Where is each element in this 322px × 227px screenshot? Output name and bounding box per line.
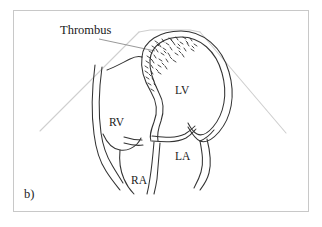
tricuspid-leaflet-2 [124,143,143,145]
la-lateral-wall-outer [200,139,210,190]
ultrasound-sector [40,30,286,133]
panel-label: b) [24,188,34,201]
label-thrombus: Thrombus [60,24,111,37]
lv-septal-wall [142,57,157,141]
tricuspid-leaflet [124,137,142,140]
heart-diagram [0,0,322,227]
ra-free-wall [120,150,134,194]
label-left-ventricle: LV [175,85,189,97]
label-right-ventricle: RV [109,117,124,129]
label-left-atrium: LA [175,151,190,163]
interatrial-septum [147,142,154,194]
heart-outlines [92,31,232,194]
rv-tricuspid-base [103,134,141,150]
la-lateral-wall [194,141,203,188]
figure-panel-b: Thrombus LV RV LA RA b) [0,0,322,227]
label-right-atrium: RA [131,175,147,187]
interatrial-septum-2 [154,143,160,194]
thrombus-stipple [145,37,197,91]
figure-frame [14,11,309,212]
